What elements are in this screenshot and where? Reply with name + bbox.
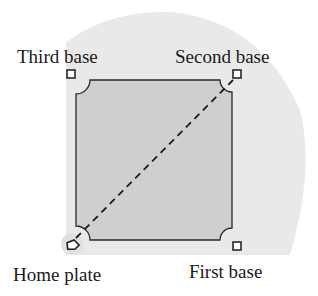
baseball-field-diagram (0, 0, 318, 296)
third-base-label: Third base (17, 47, 98, 66)
first-base-label: First base (189, 262, 262, 281)
first-base-marker (233, 242, 241, 250)
third-base-marker (67, 70, 75, 78)
second-base-label: Second base (175, 47, 269, 66)
second-base-marker (233, 70, 241, 78)
home-plate-label: Home plate (13, 265, 101, 284)
